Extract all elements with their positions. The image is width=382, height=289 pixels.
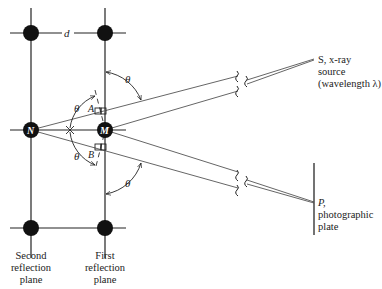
second-plane-label-1: Second	[16, 250, 48, 261]
theta-label-upper-left: θ	[74, 102, 80, 114]
atom-top-right	[97, 25, 113, 41]
upper-ray-outer	[31, 76, 238, 130]
lower-ray-inner	[105, 130, 238, 172]
break-marks	[236, 71, 248, 196]
source-label-line2: source	[318, 66, 346, 77]
atom-bottom-left	[23, 220, 39, 236]
atom-top-left	[23, 25, 39, 41]
second-plane-label-2: reflection	[11, 262, 52, 273]
plate-label-line1: P,	[317, 197, 326, 208]
bragg-diagram: d	[0, 0, 382, 289]
plate-label-line2: photographic	[318, 209, 374, 220]
atom-M-label: M	[99, 125, 110, 136]
source-label-line1: S, x-ray	[318, 54, 352, 65]
lower-ray-outer	[31, 130, 238, 188]
angle-arc-upper-right	[106, 72, 141, 100]
first-plane-label-1: First	[95, 250, 114, 261]
point-A-label: A	[87, 103, 95, 114]
spacing-label: d	[64, 27, 70, 39]
plate-label-line3: plate	[318, 221, 339, 232]
atom-N-label: N	[26, 125, 35, 136]
point-B-label: B	[88, 149, 94, 160]
theta-label-lower-right: θ	[125, 177, 131, 189]
theta-label-lower-left: θ	[74, 150, 80, 162]
theta-label-upper-right: θ	[125, 73, 131, 85]
upper-ray-inner	[105, 91, 238, 130]
incident-rays	[31, 59, 314, 203]
atom-bottom-right	[97, 220, 113, 236]
angle-arc-lower-right	[106, 163, 141, 194]
source-label-line3: (wavelength λ)	[318, 78, 382, 90]
first-plane-label-3: plane	[94, 274, 117, 285]
second-plane-label-3: plane	[20, 274, 43, 285]
first-plane-label-2: reflection	[85, 262, 126, 273]
